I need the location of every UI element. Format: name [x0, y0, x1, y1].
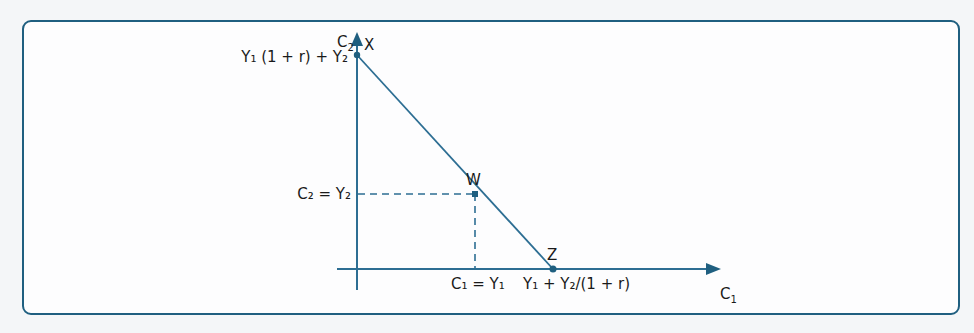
c1-axis-arrow-icon — [706, 263, 721, 275]
point-z — [550, 266, 557, 273]
point-z-label: Z — [547, 246, 557, 264]
point-x — [354, 52, 360, 58]
x-intercept-label: Y₁ (1 + r) + Y₂ — [240, 48, 348, 66]
budget-line — [357, 55, 553, 269]
w-c2-label: C₂ = Y₂ — [297, 185, 351, 203]
z-intercept-label: Y₁ + Y₂/(1 + r) — [522, 275, 630, 293]
c1-axis-label: C1 — [720, 285, 737, 305]
point-w-label: W — [466, 171, 481, 189]
intertemporal-budget-diagram: C2 C1 X W Z Y₁ (1 + r) + Y₂ C₂ = Y₂ C₁ =… — [0, 0, 974, 333]
point-x-label: X — [364, 36, 374, 54]
w-c1-label: C₁ = Y₁ — [451, 275, 505, 293]
point-w — [472, 191, 478, 197]
